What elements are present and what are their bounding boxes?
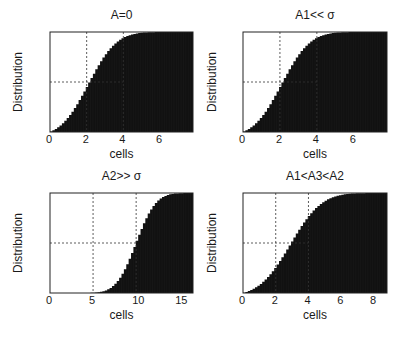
x-axis-label: cells	[243, 147, 387, 161]
x-tick-label: 6	[350, 133, 356, 145]
plot-area	[243, 193, 387, 293]
x-tick-label: 5	[89, 294, 95, 306]
x-tick-label: 6	[337, 294, 343, 306]
x-tick-label: 10	[132, 294, 144, 306]
panel-title: A1<< σ	[243, 8, 387, 22]
x-tick-label: 2	[272, 294, 278, 306]
x-axis-label: cells	[50, 308, 193, 322]
x-tick-label: 4	[119, 133, 125, 145]
x-tick-label: 2	[276, 133, 282, 145]
x-tick-label: 15	[175, 294, 187, 306]
panel-title: A=0	[50, 8, 193, 22]
x-tick-label: 0	[239, 133, 245, 145]
x-axis-label: cells	[243, 308, 387, 322]
x-tick-label: 0	[46, 133, 52, 145]
y-axis-label: Distribution	[11, 42, 25, 122]
panel-title: A2>> σ	[50, 169, 193, 183]
y-axis-label: Distribution	[11, 203, 25, 283]
x-tick-label: 4	[313, 133, 319, 145]
y-axis-label: Distribution	[205, 42, 219, 122]
x-tick-label: 0	[239, 294, 245, 306]
x-tick-label: 4	[304, 294, 310, 306]
x-tick-label: 8	[370, 294, 376, 306]
x-axis-label: cells	[50, 147, 193, 161]
x-tick-label: 0	[46, 294, 52, 306]
x-tick-label: 6	[156, 133, 162, 145]
plot-area	[50, 32, 193, 132]
plot-area	[243, 32, 387, 132]
panel-title: A1<A3<A2	[243, 169, 387, 183]
y-axis-label: Distribution	[205, 203, 219, 283]
plot-area	[50, 193, 193, 293]
x-tick-label: 2	[83, 133, 89, 145]
